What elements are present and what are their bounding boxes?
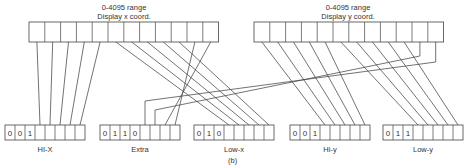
y-register-name: Display y coord.	[253, 12, 443, 21]
hi-x-prefix-bit: 0	[18, 129, 23, 138]
wiring-diagram: 0010110010001011	[0, 0, 465, 168]
hi-x-prefix-bit: 0	[8, 129, 13, 138]
y-to-hi-y-wire	[309, 42, 355, 125]
y-to-extra-wire	[155, 42, 420, 125]
y-to-hi-y-wire	[294, 42, 346, 125]
y-register-title: 0-4095 range Display y coord.	[253, 3, 443, 21]
x-to-hi-x-wire	[50, 42, 53, 125]
y-to-hi-y-wire	[325, 42, 365, 125]
y-to-low-y-wire	[341, 42, 418, 125]
low-y-label: Low-y	[383, 145, 463, 154]
y-to-hi-y-wire	[262, 42, 325, 125]
coordinate-encoding-diagram: 0010110010001011 0-4095 range Display x …	[0, 0, 465, 168]
x-to-low-x-wire	[116, 42, 229, 125]
low-x-prefix-bit: 0	[197, 129, 202, 138]
x-to-hi-x-wire	[80, 42, 100, 125]
low-y-prefix-bit: 0	[386, 129, 391, 138]
x-register-name: Display x coord.	[29, 12, 219, 21]
hi-y-prefix-bit: 0	[293, 129, 298, 138]
y-to-low-y-wire	[373, 42, 439, 125]
y-to-low-y-wire	[404, 42, 458, 125]
hi-x-prefix-bit: 1	[28, 129, 33, 138]
low-y-prefix-bit: 1	[396, 129, 401, 138]
extra-label: Extra	[100, 145, 180, 154]
low-x-label: Low-x	[194, 145, 274, 154]
x-to-hi-x-wire	[70, 42, 84, 125]
y-to-low-y-wire	[388, 42, 448, 125]
extra-prefix-bit: 1	[113, 129, 118, 138]
figure-caption: (b)	[228, 156, 237, 165]
extra-prefix-bit: 0	[133, 129, 138, 138]
hi-y-prefix-bit: 1	[313, 129, 318, 138]
hi-x-label: HI-X	[5, 145, 85, 154]
y-register-range: 0-4095 range	[253, 3, 443, 12]
hi-y-label: Hi-y	[290, 145, 370, 154]
y-to-low-y-wire	[357, 42, 428, 125]
x-to-low-x-wire	[179, 42, 269, 125]
low-x-prefix-bit: 1	[207, 129, 212, 138]
x-register-title: 0-4095 range Display x coord.	[29, 3, 219, 21]
x-to-hi-x-wire	[37, 42, 40, 125]
x-to-low-x-wire	[148, 42, 250, 125]
x-to-hi-x-wire	[60, 42, 69, 125]
low-x-prefix-bit: 0	[217, 129, 222, 138]
x-to-low-x-wire	[132, 42, 239, 125]
extra-prefix-bit: 0	[103, 129, 108, 138]
low-y-prefix-bit: 1	[406, 129, 411, 138]
hi-y-prefix-bit: 0	[303, 129, 308, 138]
x-register-range: 0-4095 range	[29, 3, 219, 12]
extra-prefix-bit: 1	[123, 129, 128, 138]
